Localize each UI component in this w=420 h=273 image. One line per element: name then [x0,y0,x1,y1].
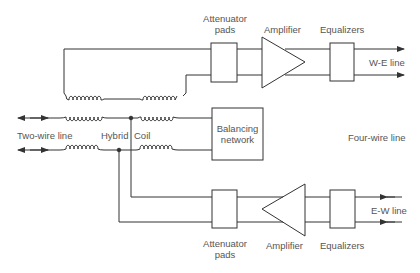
hybrid-coil [18,96,212,222]
hybrid-label: Hybrid [101,130,128,141]
we-line-label: W-E line [369,57,405,68]
balancing-network-label: Balancing network [212,123,263,145]
ew-attenuator-label-line1: Attenuator [199,238,251,249]
we-attenuator-label: Attenuator pads [200,13,250,35]
we-attenuator-box [211,43,237,82]
two-wire-line-label: Two-wire line [17,130,72,141]
we-feed-wire-top [64,49,211,96]
we-amplifier-triangle [262,37,305,88]
we-attenuator-label-line1: Attenuator [200,13,250,24]
ew-amplifier-label: Amplifier [266,240,303,251]
we-amplifier-label: Amplifier [264,24,301,35]
balancing-label-line1: Balancing [212,123,263,134]
we-equalizers-label: Equalizers [320,24,364,35]
we-attenuator-label-line2: pads [200,24,250,35]
coil-row1-left [66,96,177,100]
balancing-label-line2: network [212,134,263,145]
ew-attenuator-label-line2: pads [199,249,251,260]
coil-row2-left [60,117,212,121]
ew-equalizers-label: Equalizers [320,240,364,251]
four-wire-line-label: Four-wire line [348,132,406,143]
ew-feed-wire-bottom [119,150,212,222]
we-path [64,37,404,96]
coil-label: Coil [134,130,150,141]
ew-line-label: E-W line [371,205,407,216]
ew-equalizer-box [330,190,355,228]
coil-row3-left [60,145,212,150]
ew-attenuator-box [212,190,237,228]
ew-attenuator-label: Attenuator pads [199,238,251,260]
ew-amplifier-triangle [262,184,305,236]
we-equalizer-box [330,43,354,81]
we-feed-wire-bottom [183,75,211,96]
